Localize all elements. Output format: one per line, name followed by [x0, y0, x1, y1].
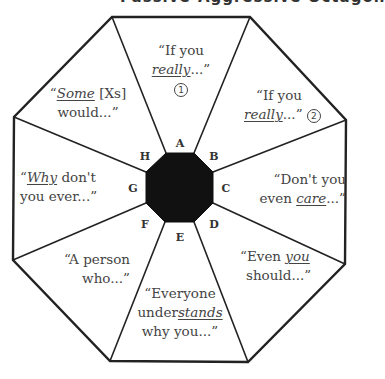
segment-f-line1: “A person — [30, 250, 130, 269]
segment-g-line2: you ever...” — [20, 187, 120, 206]
segment-c-line2: even care...” — [246, 189, 346, 208]
segment-e-text: “Everyone understands why you...” — [130, 284, 230, 341]
circled-number-2: 2 — [307, 109, 321, 123]
segment-c-line2-end: ...” — [326, 190, 346, 206]
label-h: H — [138, 150, 152, 164]
segment-a-line2-end: ...” — [190, 61, 210, 77]
segment-b-text: “If you really...” 2 — [236, 86, 346, 124]
segment-e-line2-start: under — [137, 304, 177, 320]
center-octagon — [146, 153, 213, 222]
circled-number-1: 1 — [174, 83, 188, 97]
segment-h-text: “Some [Xs] would...” — [38, 84, 138, 122]
segment-a-line1: “If you — [141, 41, 221, 60]
segment-b-line1: “If you — [236, 86, 346, 105]
segment-h-line1-start: “ — [50, 85, 57, 101]
segment-d-emphasis: you — [285, 248, 309, 264]
segment-h-emphasis: Some — [57, 85, 95, 101]
segment-d-line1: “Even you — [234, 247, 334, 266]
segment-c-emphasis: care — [296, 190, 326, 206]
segment-a-line2: really...” — [141, 60, 221, 79]
segment-g-line1-start: “ — [20, 169, 27, 185]
segment-d-line1-start: “Even — [240, 248, 285, 264]
segment-a-emphasis: really — [152, 61, 191, 77]
segment-b-line2: really...” 2 — [236, 105, 346, 124]
label-e: E — [173, 231, 187, 245]
segment-e-line2: understands — [130, 303, 230, 322]
segment-e-emphasis: stands — [178, 304, 223, 320]
segment-d-line2: should...” — [234, 266, 334, 285]
label-b: B — [207, 150, 221, 164]
label-d: D — [207, 218, 221, 232]
segment-g-emphasis: Why — [27, 169, 57, 185]
segment-h-line1-end: [Xs] — [95, 85, 126, 101]
segment-b-emphasis: really — [244, 106, 283, 122]
segment-f-line2: who...” — [30, 269, 130, 288]
label-g: G — [126, 182, 140, 196]
segment-a-text: “If you really...” 1 — [141, 41, 221, 98]
segment-b-line2-end: ...” — [283, 106, 303, 122]
segment-c-line1: “Don't you — [246, 170, 346, 189]
segment-a-number-row: 1 — [141, 79, 221, 98]
segment-h-line1: “Some [Xs] — [38, 84, 138, 103]
segment-c-text: “Don't you even care...” — [246, 170, 346, 208]
segment-d-text: “Even you should...” — [234, 247, 334, 285]
label-a: A — [173, 137, 187, 151]
segment-e-line3: why you...” — [130, 322, 230, 341]
segment-e-line1: “Everyone — [130, 284, 230, 303]
segment-g-line1: “Why don't — [20, 168, 120, 187]
segment-g-line1-end: don't — [57, 169, 96, 185]
segment-g-text: “Why don't you ever...” — [20, 168, 120, 206]
segment-f-text: “A person who...” — [30, 250, 130, 288]
label-c: C — [219, 182, 233, 196]
segment-h-line2: would...” — [38, 103, 138, 122]
segment-c-line2-start: even — [260, 190, 297, 206]
label-f: F — [138, 218, 152, 232]
